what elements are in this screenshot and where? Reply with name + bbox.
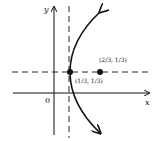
parabola-curve xyxy=(70,12,100,133)
origin-label: 0 xyxy=(45,96,50,105)
focus-point xyxy=(97,69,103,75)
x-axis-label: x xyxy=(145,98,150,107)
y-axis-label: y xyxy=(44,5,49,14)
focus-label: (2/3, 1/3) xyxy=(99,56,127,63)
vertex-label: (1/3, 1/3) xyxy=(75,77,103,84)
parabola-diagram xyxy=(0,0,161,141)
vertex-point xyxy=(67,69,73,75)
